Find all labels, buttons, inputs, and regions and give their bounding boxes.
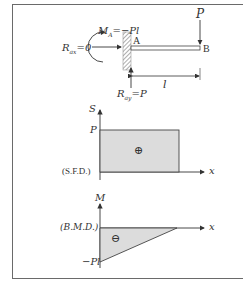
ray-label: Ray=P	[117, 89, 147, 101]
moment-symbol: M	[98, 25, 108, 36]
cantilever-beam	[131, 46, 200, 50]
rax-symbol: R	[62, 42, 70, 53]
plus-sign-icon: ⊕	[134, 145, 143, 156]
sfd-diagram-label: (S.F.D.)	[62, 167, 91, 176]
point-a-label: A	[133, 36, 140, 46]
ray-value: =P	[132, 88, 147, 99]
sfd-axis-x-label: x	[209, 166, 215, 176]
bmd-axis-x-label: x	[209, 222, 215, 232]
bmd-value-label: −Pl	[82, 257, 100, 267]
load-label: P	[196, 8, 204, 20]
bmd-axis-y-label: M	[95, 193, 105, 203]
rax-value: =0	[77, 42, 92, 53]
point-b-label: B	[203, 44, 210, 54]
sfd-value-label: P	[90, 125, 97, 135]
ray-subscript: ay	[125, 94, 132, 101]
ray-symbol: R	[117, 88, 125, 99]
minus-sign-icon: ⊖	[111, 233, 120, 244]
rax-label: Rax=0	[62, 43, 91, 55]
sfd-axis-y-label: S	[89, 104, 96, 114]
length-label: l	[163, 79, 167, 90]
rax-subscript: ax	[70, 48, 77, 55]
bmd-diagram-label: (B.M.D.)	[60, 223, 98, 232]
